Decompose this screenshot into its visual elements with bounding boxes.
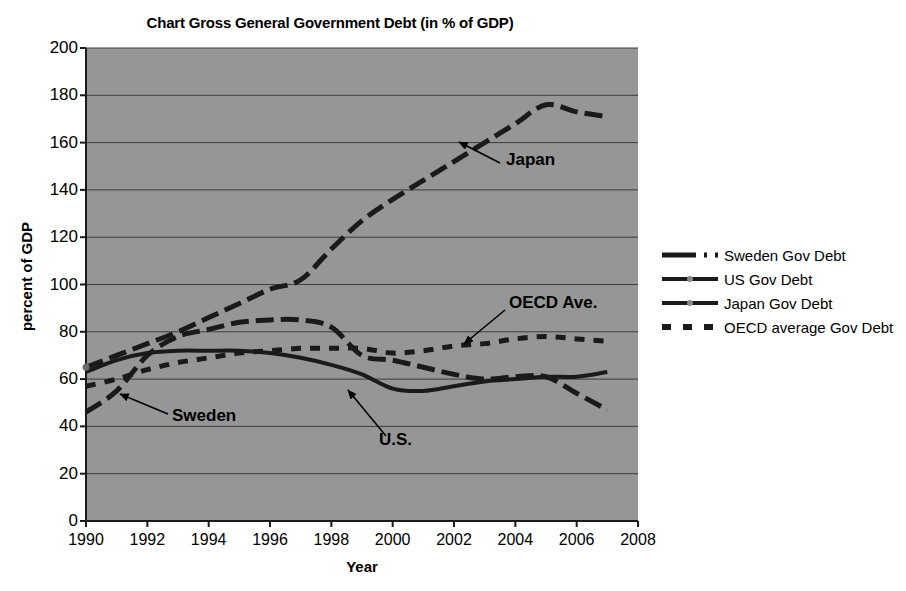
dash-dot-line-marker <box>662 248 718 262</box>
legend-item[interactable]: Japan Gov Debt <box>662 291 902 315</box>
annotation-label: OECD Ave. <box>509 293 598 313</box>
legend-item[interactable]: Sweden Gov Debt <box>662 243 902 267</box>
legend-item-label: OECD average Gov Debt <box>718 319 893 336</box>
chart-legend: Sweden Gov DebtUS Gov DebtJapan Gov Debt… <box>662 243 902 339</box>
square-dash-marker <box>662 320 718 334</box>
annotation-label: Sweden <box>172 406 236 426</box>
annotation-label: Japan <box>506 150 555 170</box>
solid-line-marker <box>662 272 718 286</box>
chart-container: Chart Gross General Government Debt (in … <box>0 0 906 591</box>
legend-item[interactable]: US Gov Debt <box>662 267 902 291</box>
legend-item-label: Sweden Gov Debt <box>718 247 846 264</box>
legend-item[interactable]: OECD average Gov Debt <box>662 315 902 339</box>
solid-line-marker <box>662 296 718 310</box>
annotation-label: U.S. <box>379 430 412 450</box>
series-start-marker <box>83 364 90 371</box>
legend-item-label: US Gov Debt <box>718 271 812 288</box>
legend-item-label: Japan Gov Debt <box>718 295 832 312</box>
